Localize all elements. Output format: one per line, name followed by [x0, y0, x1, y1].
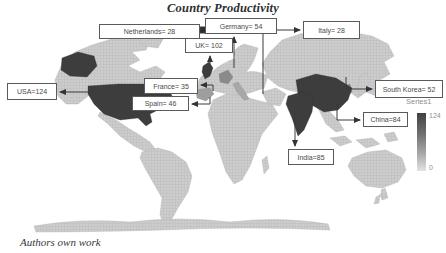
callout-netherlands: Netherlands= 28 [99, 24, 200, 39]
map-region-australia [348, 150, 406, 188]
callout-italy: Italy= 28 [303, 21, 360, 39]
map-region-antarctica [34, 219, 330, 232]
callout-south-korea: South Korea= 52 [375, 80, 443, 98]
legend-gradient-bar [417, 113, 426, 171]
legend-max-label: 124 [429, 112, 441, 119]
source-caption: Authors own work [20, 236, 101, 248]
map-region-south-america [140, 148, 192, 228]
callout-india: India=85 [288, 149, 334, 165]
legend: Series1 124 0 [400, 97, 446, 179]
map-region-madagascar [262, 156, 269, 174]
legend-series-label: Series1 [406, 97, 431, 106]
callout-germany: Germany= 54 [205, 18, 277, 34]
callout-china: China=84 [363, 112, 408, 127]
map-country-india [286, 92, 314, 136]
callout-usa: USA=124 [7, 83, 57, 100]
map-region-indonesia [330, 132, 398, 148]
map-country-spain [196, 88, 214, 101]
callout-spain: Spain= 46 [132, 96, 189, 111]
callout-france: France= 35 [144, 78, 198, 94]
legend-min-label: 0 [429, 164, 433, 171]
map-region-africa [208, 94, 278, 184]
callout-uk: UK= 102 [185, 38, 233, 53]
